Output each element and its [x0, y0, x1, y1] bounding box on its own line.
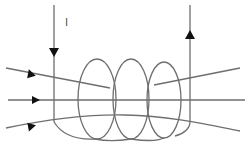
coil-bottom-link-2	[131, 138, 164, 140]
coil-bottom-link-1	[95, 139, 131, 141]
diagram-canvas	[0, 0, 249, 154]
coil-turn-2	[113, 59, 149, 139]
field-arrow-middle-icon	[32, 96, 40, 104]
field-line-top-right	[154, 68, 240, 85]
coil-turn-1	[78, 59, 116, 139]
field-arrow-top-icon	[27, 69, 37, 79]
solenoid-diagram: I	[0, 0, 249, 154]
current-arrow-up-icon	[185, 30, 195, 39]
field-line-bottom	[6, 115, 240, 131]
current-label: I	[65, 17, 68, 28]
coil-lead-in	[54, 122, 95, 139]
current-arrow-down-icon	[49, 48, 59, 57]
field-line-top-left	[6, 68, 110, 88]
